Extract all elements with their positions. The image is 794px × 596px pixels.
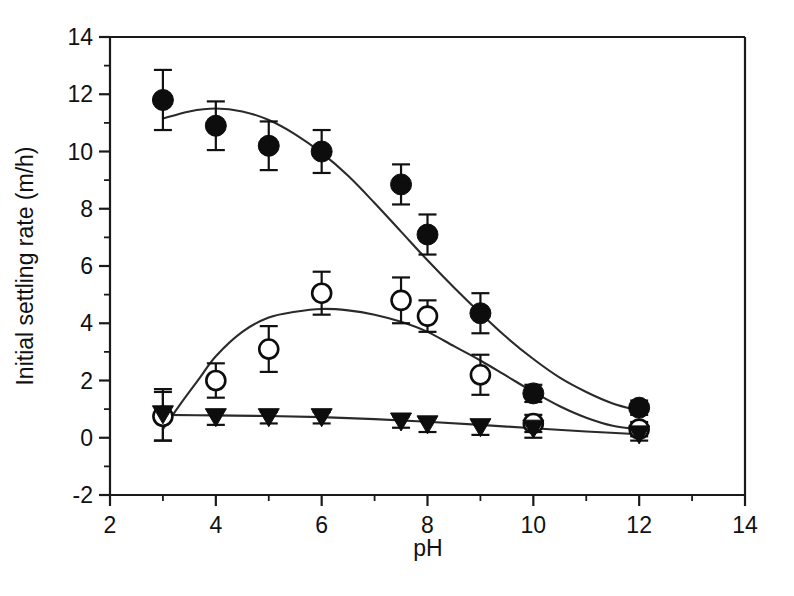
x-tick-label: 2	[104, 512, 117, 538]
y-tick-label: -2	[73, 482, 93, 508]
marker-filled-circle	[205, 115, 226, 136]
marker-filled-circle	[258, 135, 279, 156]
marker-filled-circle	[417, 224, 438, 245]
y-tick-label: 14	[67, 24, 93, 50]
x-tick-label: 4	[209, 512, 222, 538]
marker-open-circle	[418, 307, 437, 326]
settling-rate-chart: 2468101214 -202468101214 pH Initial sett…	[0, 0, 794, 596]
marker-filled-circle	[391, 174, 412, 195]
x-tick-label: 14	[732, 512, 758, 538]
marker-filled-circle	[470, 303, 491, 324]
marker-open-circle	[259, 340, 278, 359]
figure-container: 2468101214 -202468101214 pH Initial sett…	[0, 0, 794, 596]
y-tick-label: 2	[80, 368, 93, 394]
marker-open-circle	[312, 284, 331, 303]
y-tick-label: 6	[80, 253, 93, 279]
x-tick-label: 12	[626, 512, 652, 538]
y-tick-label: 0	[80, 425, 93, 451]
marker-filled-circle	[523, 383, 544, 404]
y-axis-title: Initial settling rate (m/h)	[12, 146, 38, 385]
x-axis-title: pH	[413, 535, 442, 561]
marker-filled-circle	[311, 141, 332, 162]
marker-open-circle	[392, 291, 411, 310]
x-tick-label: 6	[315, 512, 328, 538]
y-tick-label: 10	[67, 139, 93, 165]
marker-filled-circle	[152, 89, 173, 110]
marker-open-circle	[206, 371, 225, 390]
marker-open-circle	[471, 365, 490, 384]
y-tick-label: 12	[67, 81, 93, 107]
y-tick-label: 4	[80, 310, 93, 336]
x-tick-label: 10	[521, 512, 547, 538]
marker-filled-circle	[629, 397, 650, 418]
y-tick-label: 8	[80, 196, 93, 222]
